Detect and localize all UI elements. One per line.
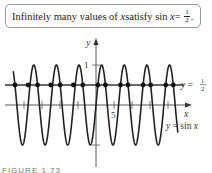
line-label-num: 1 — [201, 77, 204, 84]
x-axis-label: x — [183, 108, 189, 119]
line-label-den: 2 — [201, 85, 204, 92]
x-tick-label-5: 5 — [111, 110, 116, 120]
curve-label: y = sin x — [165, 121, 199, 131]
y-axis-label: y — [85, 37, 91, 48]
line-label: y = — [180, 80, 193, 90]
y-tick-label-1: 1 — [84, 60, 89, 70]
figure-caption: FIGURE 1.73 — [2, 166, 61, 173]
sine-graph: y x 1 5 y = 1 2 y = sin x — [0, 0, 212, 173]
